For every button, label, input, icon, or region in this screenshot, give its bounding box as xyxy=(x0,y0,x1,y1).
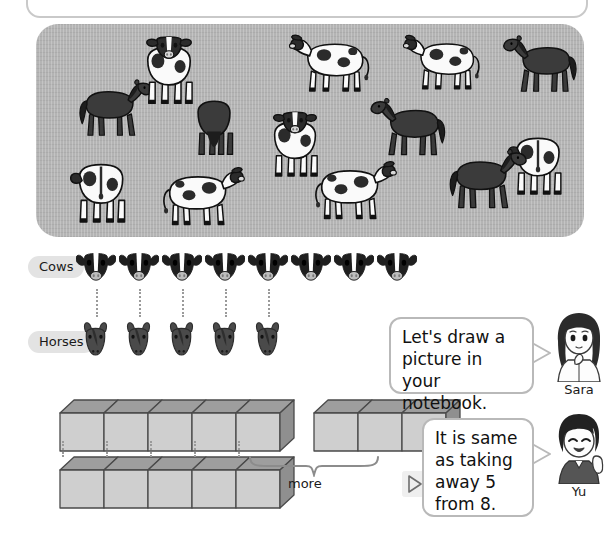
horse-right-figure xyxy=(444,144,530,216)
avatar-sara xyxy=(549,310,609,382)
more-label: more xyxy=(288,476,322,491)
cow-head-icon xyxy=(119,250,159,286)
tally-connector-line xyxy=(96,289,98,317)
speech-line: It is same xyxy=(435,427,521,449)
horse-head-icon xyxy=(123,320,154,359)
horse-front-figure xyxy=(186,96,242,158)
more-brace xyxy=(248,455,380,477)
speech-bubble-sara: Let's draw a picture in your notebook. xyxy=(389,317,534,394)
tally-connector-line xyxy=(268,289,270,317)
speech-line: notebook. xyxy=(402,392,521,414)
speech-line: picture in your xyxy=(402,348,521,392)
tally-connector-line xyxy=(225,289,227,317)
cut-off-rounded-panel xyxy=(26,0,588,18)
speech-line: from 8. xyxy=(435,493,521,515)
horse-head-icon xyxy=(80,320,111,359)
cow-back-figure xyxy=(68,152,134,228)
avatar-yu xyxy=(549,412,609,484)
horse-head-icon xyxy=(209,320,240,359)
pasture-illustration xyxy=(36,24,584,237)
cow-head-icon xyxy=(248,250,288,286)
cow-left-figure xyxy=(288,30,378,98)
horse-head-icon xyxy=(166,320,197,359)
avatar-name-yu: Yu xyxy=(544,484,614,499)
cow-head-icon xyxy=(205,250,245,286)
cow-head-icon xyxy=(162,250,202,286)
cow-head-icon xyxy=(291,250,331,286)
cow-head-icon xyxy=(76,250,116,286)
horse-head-icon xyxy=(252,320,283,359)
speech-bubble-yu: It is same as taking away 5 from 8. xyxy=(422,418,534,517)
avatar-name-sara: Sara xyxy=(544,382,614,397)
block-connector-line xyxy=(106,441,108,457)
tally-connector-line xyxy=(139,289,141,317)
cow-head-icon xyxy=(334,250,374,286)
block-connector-line xyxy=(150,441,152,457)
speech-line: Let's draw a xyxy=(402,326,521,348)
horse-left-figure xyxy=(366,98,452,158)
speech-line: as taking xyxy=(435,449,521,471)
block-connector-line xyxy=(238,441,240,457)
cow-right-figure xyxy=(154,164,246,230)
block-connector-line xyxy=(62,441,64,457)
cow-head-icon xyxy=(377,250,417,286)
horse-left-figure xyxy=(500,34,582,96)
cow-left-figure xyxy=(402,30,488,96)
cow-right-figure xyxy=(306,158,398,224)
speech-line: away 5 xyxy=(435,471,521,493)
block-connector-line xyxy=(194,441,196,457)
tally-connector-line xyxy=(182,289,184,317)
